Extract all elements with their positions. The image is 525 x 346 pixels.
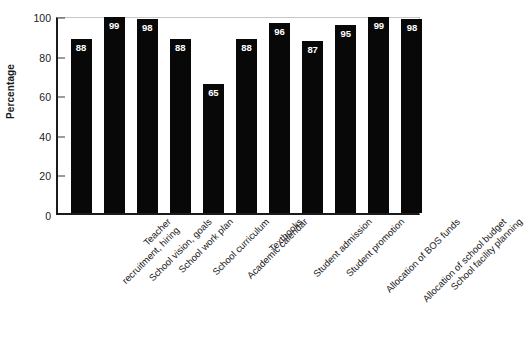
bar: 87 bbox=[302, 41, 323, 213]
bar: 98 bbox=[137, 19, 158, 213]
bar-value-label: 98 bbox=[137, 22, 158, 33]
bar: 99 bbox=[368, 17, 389, 213]
x-axis-label-line: Student admission bbox=[310, 216, 373, 279]
x-axis-labels: Teacherrecruitment, hiringSchool vision,… bbox=[0, 216, 438, 346]
y-tick-label: 80 bbox=[39, 52, 51, 64]
y-axis-title: Percentage bbox=[5, 52, 16, 132]
bar-series: 8899988865889687959998 bbox=[58, 18, 419, 213]
bar-value-label: 96 bbox=[269, 26, 290, 37]
bar: 88 bbox=[236, 39, 257, 213]
x-axis-label: Student promotion bbox=[343, 216, 406, 279]
plot-area: 020406080100 8899988865889687959998 bbox=[56, 17, 420, 215]
x-axis-label: Textbooks bbox=[267, 216, 306, 255]
x-axis-label: Allocation of school budget bbox=[420, 216, 509, 305]
bar-value-label: 99 bbox=[368, 20, 389, 31]
bar-value-label: 87 bbox=[302, 44, 323, 55]
bar: 98 bbox=[401, 19, 422, 213]
bar-value-label: 99 bbox=[104, 20, 125, 31]
y-tick-label: 100 bbox=[33, 12, 51, 24]
bar: 88 bbox=[71, 39, 92, 213]
bar-value-label: 88 bbox=[170, 42, 191, 53]
bar-value-label: 88 bbox=[71, 42, 92, 53]
bar: 88 bbox=[170, 39, 191, 213]
bar-value-label: 65 bbox=[203, 87, 224, 98]
bar: 99 bbox=[104, 17, 125, 213]
y-tick-label: 40 bbox=[39, 131, 51, 143]
x-axis-label-line: Student promotion bbox=[343, 216, 406, 279]
bar: 96 bbox=[269, 23, 290, 213]
bar: 95 bbox=[335, 25, 356, 213]
bar-value-label: 95 bbox=[335, 28, 356, 39]
bar: 65 bbox=[203, 84, 224, 213]
bar-value-label: 88 bbox=[236, 42, 257, 53]
x-axis-label: Student admission bbox=[310, 216, 374, 280]
y-tick-label: 60 bbox=[39, 91, 51, 103]
y-tick-label: 20 bbox=[39, 170, 51, 182]
x-axis-label-line: Allocation of school budget bbox=[420, 216, 508, 304]
bar-value-label: 98 bbox=[401, 22, 422, 33]
